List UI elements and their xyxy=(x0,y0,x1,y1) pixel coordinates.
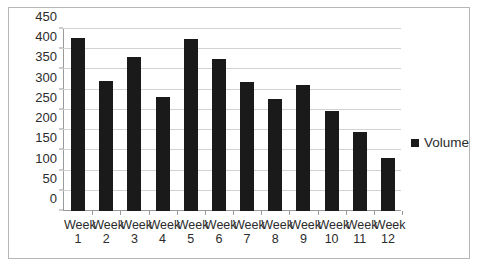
chart-legend: Volume xyxy=(411,136,469,150)
bar-slot xyxy=(289,29,317,211)
bar-week-5[interactable] xyxy=(184,39,198,211)
x-label-line-1: Week xyxy=(346,218,374,232)
legend-label-volume: Volume xyxy=(424,136,469,150)
x-label-line-2: 5 xyxy=(177,232,205,246)
y-tick-mark-400 xyxy=(59,48,63,49)
bar-slot xyxy=(233,29,261,211)
x-tick-mark xyxy=(120,211,121,215)
x-label-line-2: 10 xyxy=(318,232,346,246)
bar-slot xyxy=(120,29,148,211)
x-label-line-2: 11 xyxy=(346,232,374,246)
y-tick-label-50: 50 xyxy=(43,171,57,184)
x-label-week-1: Week1 xyxy=(64,218,92,246)
bar-week-7[interactable] xyxy=(240,82,254,211)
x-label-week-3: Week3 xyxy=(120,218,148,246)
x-label-line-1: Week xyxy=(233,218,261,232)
chart-frame: 050100150200250300350400450 Week1Week2We… xyxy=(8,7,470,259)
x-label-week-10: Week10 xyxy=(318,218,346,246)
bar-week-8[interactable] xyxy=(268,99,282,211)
x-label-week-2: Week2 xyxy=(92,218,120,246)
x-tick-mark xyxy=(318,211,319,215)
x-label-line-2: 1 xyxy=(64,232,92,246)
x-label-line-2: 2 xyxy=(92,232,120,246)
x-tick-mark xyxy=(374,211,375,215)
x-label-line-1: Week xyxy=(177,218,205,232)
x-label-line-2: 8 xyxy=(261,232,289,246)
bars-layer xyxy=(64,29,401,211)
x-label-line-2: 12 xyxy=(374,232,402,246)
y-tick-label-400: 400 xyxy=(35,30,57,43)
bar-week-6[interactable] xyxy=(212,59,226,211)
x-label-week-9: Week9 xyxy=(289,218,317,246)
bar-week-10[interactable] xyxy=(325,111,339,211)
bar-slot xyxy=(205,29,233,211)
x-label-line-1: Week xyxy=(92,218,120,232)
x-label-line-2: 6 xyxy=(205,232,233,246)
plot-area: 050100150200250300350400450 xyxy=(63,29,401,211)
y-tick-label-350: 350 xyxy=(35,50,57,63)
bar-week-11[interactable] xyxy=(353,132,367,211)
y-tick-label-250: 250 xyxy=(35,90,57,103)
bar-week-1[interactable] xyxy=(71,38,85,211)
y-tick-label-200: 200 xyxy=(35,111,57,124)
y-tick-label-450: 450 xyxy=(35,10,57,23)
y-tick-mark-50 xyxy=(59,189,63,190)
x-label-week-6: Week6 xyxy=(205,218,233,246)
x-label-week-7: Week7 xyxy=(233,218,261,246)
y-tick-mark-200 xyxy=(59,129,63,130)
x-label-line-2: 4 xyxy=(149,232,177,246)
x-label-week-5: Week5 xyxy=(177,218,205,246)
x-label-line-2: 3 xyxy=(120,232,148,246)
y-tick-mark-450 xyxy=(59,28,63,29)
bar-slot xyxy=(64,29,92,211)
x-tick-mark xyxy=(177,211,178,215)
x-label-line-1: Week xyxy=(205,218,233,232)
x-label-line-1: Week xyxy=(120,218,148,232)
x-label-line-1: Week xyxy=(261,218,289,232)
bar-slot xyxy=(374,29,402,211)
bar-slot xyxy=(177,29,205,211)
x-tick-mark xyxy=(149,211,150,215)
x-label-line-1: Week xyxy=(374,218,402,232)
x-label-line-2: 7 xyxy=(233,232,261,246)
bar-slot xyxy=(346,29,374,211)
x-label-week-8: Week8 xyxy=(261,218,289,246)
x-axis-category-labels: Week1Week2Week3Week4Week5Week6Week7Week8… xyxy=(64,218,402,258)
y-tick-mark-300 xyxy=(59,88,63,89)
bar-week-2[interactable] xyxy=(99,81,113,211)
y-tick-mark-350 xyxy=(59,68,63,69)
y-tick-label-300: 300 xyxy=(35,70,57,83)
bar-slot xyxy=(261,29,289,211)
x-label-line-1: Week xyxy=(318,218,346,232)
x-label-line-1: Week xyxy=(149,218,177,232)
bar-slot xyxy=(318,29,346,211)
y-tick-label-150: 150 xyxy=(35,131,57,144)
bar-week-9[interactable] xyxy=(296,85,310,211)
x-label-week-12: Week12 xyxy=(374,218,402,246)
x-label-line-2: 9 xyxy=(289,232,317,246)
x-label-week-11: Week11 xyxy=(346,218,374,246)
y-tick-mark-100 xyxy=(59,169,63,170)
x-tick-mark xyxy=(205,211,206,215)
x-tick-mark xyxy=(289,211,290,215)
x-tick-mark xyxy=(346,211,347,215)
bar-week-3[interactable] xyxy=(127,57,141,211)
x-label-line-1: Week xyxy=(64,218,92,232)
y-tick-mark-150 xyxy=(59,149,63,150)
legend-swatch-volume xyxy=(411,139,419,147)
x-tick-mark xyxy=(233,211,234,215)
bar-week-12[interactable] xyxy=(381,158,395,211)
y-tick-mark-0 xyxy=(59,210,63,211)
y-tick-label-100: 100 xyxy=(35,151,57,164)
x-tick-mark xyxy=(402,211,403,215)
y-tick-label-0: 0 xyxy=(50,192,57,205)
bar-week-4[interactable] xyxy=(156,97,170,211)
bar-slot xyxy=(92,29,120,211)
x-label-line-1: Week xyxy=(289,218,317,232)
x-tick-mark xyxy=(92,211,93,215)
x-tick-mark xyxy=(261,211,262,215)
y-tick-mark-250 xyxy=(59,108,63,109)
bar-slot xyxy=(149,29,177,211)
x-label-week-4: Week4 xyxy=(149,218,177,246)
